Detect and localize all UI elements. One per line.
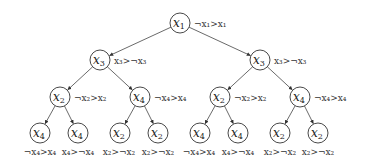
tree-node-l6: x4x₄>¬x₄ — [222, 123, 255, 157]
node-preference-label: x₂>¬x₂ — [103, 147, 136, 157]
tree-node-l3: x2x₂>¬x₂ — [103, 123, 136, 157]
edge-arrow — [110, 27, 171, 55]
tree-node-n6: x2¬x₂>x₂ — [210, 87, 267, 107]
node-preference-label: x₄>¬x₄ — [62, 147, 95, 157]
edge-arrow — [228, 67, 253, 90]
edge-arrow — [189, 27, 250, 55]
tree-node-n3: x3x₃>¬x₃ — [250, 50, 307, 70]
edge-arrow — [144, 106, 153, 124]
node-preference-label: ¬x₂>x₂ — [74, 93, 107, 103]
edge-arrow — [205, 106, 215, 124]
edges — [45, 27, 313, 124]
node-preference-label: ¬x₄>x₄ — [154, 93, 187, 103]
tree-node-n1: x1¬x₁>x₁ — [170, 13, 226, 33]
edge-arrow — [45, 106, 55, 124]
decision-tree-diagram: x1¬x₁>x₁x3x₃>¬x₃x3x₃>¬x₃x2¬x₂>x₂x4¬x₄>x₄… — [0, 0, 373, 165]
edge-arrow — [224, 106, 233, 124]
node-preference-label: x₂>¬x₂ — [142, 147, 175, 157]
node-preference-label: ¬x₄>x₄ — [24, 147, 57, 157]
tree-node-n4: x2¬x₂>x₂ — [50, 87, 107, 107]
tree-node-l4: x2x₂>¬x₂ — [142, 123, 175, 157]
edge-arrow — [125, 106, 135, 124]
tree-node-n2: x3x₃>¬x₃ — [90, 50, 147, 70]
node-preference-label: ¬x₂>x₂ — [234, 93, 267, 103]
edge-arrow — [64, 106, 73, 124]
tree-node-l5: x4¬x₄>x₄ — [183, 123, 216, 157]
node-preference-label: x₃>¬x₃ — [274, 56, 307, 66]
tree-node-l8: x2x₂>¬x₂ — [302, 123, 335, 157]
nodes: x1¬x₁>x₁x3x₃>¬x₃x3x₃>¬x₃x2¬x₂>x₂x4¬x₄>x₄… — [24, 13, 347, 157]
tree-node-l2: x4x₄>¬x₄ — [62, 123, 95, 157]
edge-arrow — [107, 67, 132, 90]
tree-node-l1: x4¬x₄>x₄ — [24, 123, 57, 157]
edge-arrow — [68, 67, 93, 90]
node-preference-label: x₃>¬x₃ — [114, 56, 147, 66]
node-preference-label: ¬x₄>x₄ — [183, 147, 216, 157]
tree-node-n5: x4¬x₄>x₄ — [130, 87, 187, 107]
node-preference-label: ¬x₁>x₁ — [194, 19, 226, 29]
node-preference-label: x₂>¬x₂ — [264, 147, 297, 157]
tree-node-n7: x4¬x₄>x₄ — [290, 87, 347, 107]
edge-arrow — [285, 106, 295, 124]
edge-arrow — [267, 67, 292, 90]
node-preference-label: x₂>¬x₂ — [302, 147, 335, 157]
node-preference-label: ¬x₄>x₄ — [314, 93, 347, 103]
edge-arrow — [304, 106, 313, 124]
node-preference-label: x₄>¬x₄ — [222, 147, 255, 157]
tree-node-l7: x2x₂>¬x₂ — [264, 123, 297, 157]
